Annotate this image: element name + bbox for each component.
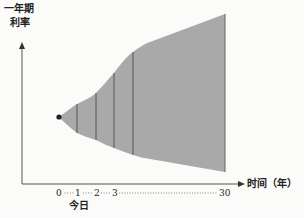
x-tick-3: 3 (111, 188, 119, 198)
today-label: 今日 (69, 200, 89, 212)
rate-range-area (59, 14, 225, 172)
x-tick-30: 30 (218, 188, 231, 198)
x-tick-1: 1 (74, 188, 82, 198)
y-axis-arrow-icon (19, 42, 25, 49)
x-tick-2: 2 (93, 188, 101, 198)
x-axis-arrow-icon (238, 181, 245, 187)
y-axis-label-line2: 利率 (10, 17, 30, 29)
x-axis-label: 时间（年） (247, 178, 297, 190)
today-point (56, 114, 61, 119)
x-tick-0: 0 (55, 188, 63, 198)
y-axis-label-line1: 一年期 (4, 3, 34, 15)
